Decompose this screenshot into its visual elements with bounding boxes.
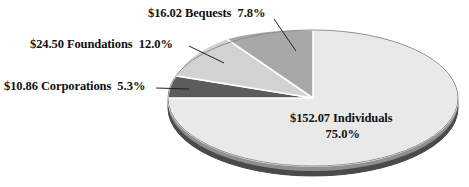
slice-label-foundations-percent: 12.0% bbox=[139, 37, 173, 51]
pie-chart-figure: $16.02 Bequests 7.8% $24.50 Foundations … bbox=[0, 0, 469, 187]
slice-label-bequests-category: Bequests bbox=[185, 6, 231, 20]
slice-label-foundations: $24.50 Foundations 12.0% bbox=[30, 37, 173, 53]
slice-label-bequests: $16.02 Bequests 7.8% bbox=[148, 6, 266, 22]
slice-label-individuals-percent: 75.0% bbox=[293, 126, 392, 142]
slice-label-individuals-amount: $152.07 bbox=[290, 111, 330, 125]
slice-label-corporations-percent: 5.3% bbox=[117, 79, 145, 93]
pie-slices bbox=[168, 30, 458, 166]
slice-label-individuals: $152.07 Individuals 75.0% bbox=[290, 110, 392, 143]
slice-label-corporations-amount: $10.86 bbox=[4, 79, 38, 93]
slice-label-individuals-category: Individuals bbox=[333, 111, 392, 125]
slice-label-bequests-amount: $16.02 bbox=[148, 6, 182, 20]
slice-label-bequests-percent: 7.8% bbox=[237, 6, 265, 20]
slice-label-corporations-category: Corporations bbox=[41, 79, 111, 93]
slice-label-foundations-amount: $24.50 bbox=[30, 37, 64, 51]
slice-label-corporations: $10.86 Corporations 5.3% bbox=[4, 79, 145, 95]
slice-label-foundations-category: Foundations bbox=[67, 37, 133, 51]
